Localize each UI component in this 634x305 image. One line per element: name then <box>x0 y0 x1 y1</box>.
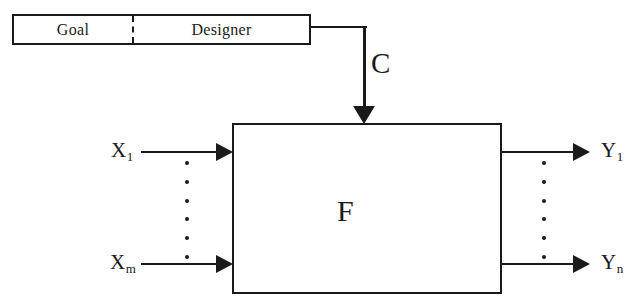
output-arrow-line-yn <box>502 263 575 265</box>
ellipsis-dot <box>185 180 189 184</box>
control-signal-label: C <box>371 49 390 78</box>
ellipsis-dot <box>542 255 546 259</box>
ellipsis-dot <box>542 217 546 221</box>
ellipsis-dot <box>185 199 189 203</box>
control-connector-vertical-segment <box>363 26 366 114</box>
ellipsis-dot <box>185 255 189 259</box>
output-label-yn: Yn <box>601 252 623 273</box>
input-label-xm-base: X <box>110 250 125 274</box>
ellipsis-dot <box>542 236 546 240</box>
input-arrow-head-x1-icon <box>216 143 233 161</box>
input-label-x1-base: X <box>111 138 126 162</box>
ellipsis-dot <box>185 236 189 240</box>
goal-label: Goal <box>57 22 89 38</box>
designer-cell: Designer <box>134 16 309 43</box>
diagram-canvas: Goal Designer C F X1 Xm Y1 Yn <box>0 0 634 305</box>
output-label-yn-base: Y <box>601 250 616 274</box>
control-connector-horizontal-segment <box>311 26 367 28</box>
output-label-y1: Y1 <box>601 140 623 161</box>
input-label-xm-subscript: m <box>125 261 136 276</box>
goal-cell: Goal <box>14 16 132 43</box>
designer-label: Designer <box>191 22 251 38</box>
process-block <box>232 123 502 294</box>
output-label-y1-base: Y <box>601 138 616 162</box>
input-arrow-head-xm-icon <box>216 255 233 273</box>
input-arrow-line-xm <box>141 263 218 265</box>
input-arrow-line-x1 <box>141 151 218 153</box>
output-arrow-head-yn-icon <box>573 255 590 273</box>
ellipsis-dot <box>542 180 546 184</box>
output-arrow-head-y1-icon <box>573 143 590 161</box>
input-label-x1-subscript: 1 <box>126 149 133 164</box>
output-ellipsis-dots <box>540 161 548 259</box>
control-arrow-head-icon <box>353 106 375 124</box>
ellipsis-dot <box>542 161 546 165</box>
output-label-yn-subscript: n <box>616 261 623 276</box>
input-ellipsis-dots <box>183 161 191 259</box>
ellipsis-dot <box>185 161 189 165</box>
ellipsis-dot <box>542 199 546 203</box>
output-arrow-line-y1 <box>502 151 575 153</box>
process-block-label: F <box>337 196 354 226</box>
input-label-x1: X1 <box>111 140 133 161</box>
ellipsis-dot <box>185 217 189 221</box>
output-label-y1-subscript: 1 <box>616 149 623 164</box>
input-label-xm: Xm <box>110 252 136 273</box>
control-box: Goal Designer <box>12 14 311 45</box>
